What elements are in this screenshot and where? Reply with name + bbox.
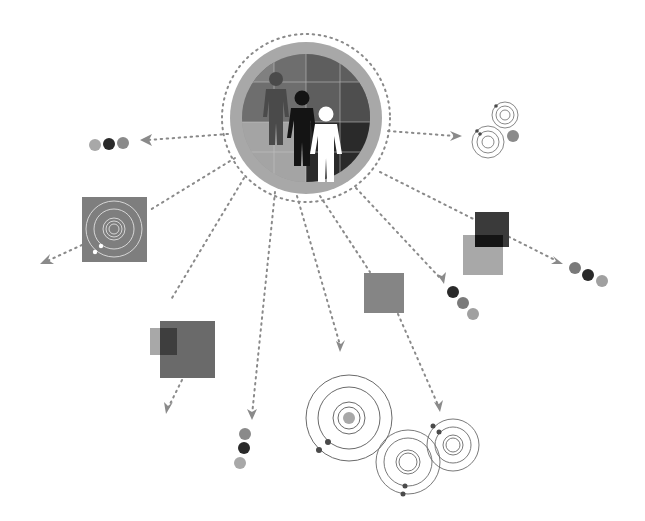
dots-left bbox=[89, 137, 129, 151]
arrowhead-icon bbox=[164, 402, 173, 414]
orbit-planet bbox=[316, 447, 322, 453]
arrow-to-square-middle bbox=[320, 196, 370, 272]
arrow-to-orbit-pair-bottom bbox=[398, 314, 438, 405]
arrow-to-far-left bbox=[45, 245, 82, 262]
arrowhead-icon bbox=[40, 254, 54, 264]
square-middle bbox=[364, 273, 404, 313]
arrow-to-dots-left bbox=[148, 134, 228, 140]
dots-right-lower bbox=[447, 286, 479, 320]
arrowhead-icon bbox=[437, 272, 446, 284]
orbit-planet bbox=[437, 430, 442, 435]
arrow-to-dots-right-lower bbox=[356, 188, 440, 278]
gray-dot bbox=[507, 130, 519, 142]
arrowhead-icon bbox=[336, 340, 345, 352]
squares-right bbox=[463, 212, 509, 275]
arrow-to-orbit-large bbox=[297, 196, 340, 345]
orbit-planet bbox=[478, 132, 482, 136]
orbit-pair-top-right bbox=[472, 102, 518, 158]
orbit-planet bbox=[403, 484, 408, 489]
hub-spoke-diagram bbox=[0, 0, 645, 521]
arrow-to-lower-left-tip bbox=[168, 380, 182, 408]
orbit-pair-bottom-right bbox=[376, 419, 479, 494]
orbit-planet bbox=[475, 129, 479, 133]
orbit-planet bbox=[431, 424, 436, 429]
arrow-to-orbit-top-right bbox=[388, 131, 455, 136]
squares-lower-left bbox=[150, 321, 215, 378]
arrowhead-icon bbox=[247, 409, 257, 420]
arrowhead-icon bbox=[551, 256, 563, 264]
arrow-to-orbit-square-left bbox=[150, 158, 235, 210]
arrow-to-squares-lower-left bbox=[172, 178, 244, 298]
orbit-planet bbox=[494, 104, 498, 108]
dots-bottom-left bbox=[234, 428, 251, 469]
orbit-square-left bbox=[82, 197, 147, 262]
arrowhead-icon bbox=[450, 131, 462, 141]
arrowhead-icon bbox=[434, 400, 443, 412]
orbit-planet bbox=[325, 439, 331, 445]
arrow-to-dots-bottom-left bbox=[252, 192, 275, 415]
people-emblem bbox=[222, 34, 390, 202]
orbit-planet bbox=[401, 492, 406, 497]
dots-far-right bbox=[569, 262, 608, 287]
